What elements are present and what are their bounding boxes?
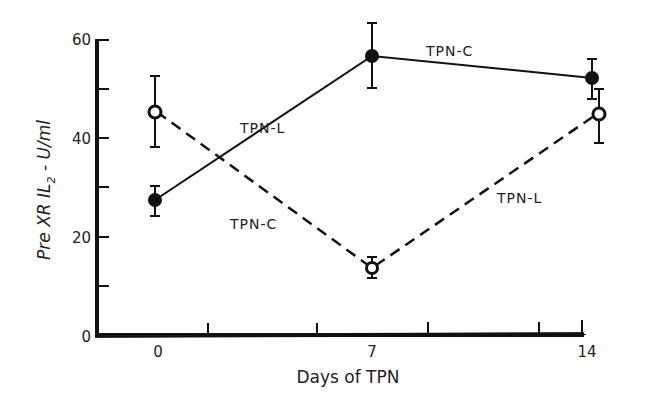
filled-circle-day7: [365, 49, 379, 63]
y-tick-20: 20: [72, 229, 91, 247]
error-bars-open: [150, 76, 604, 278]
x-tick-0: 0: [153, 343, 163, 361]
x-axis-title: Days of TPN: [297, 367, 400, 387]
x-axis: 0 7 14 Days of TPN: [95, 320, 597, 387]
y-tick-60: 60: [72, 31, 91, 49]
y-axis-title: Pre XR IL2 - U/ml: [34, 120, 58, 260]
x-tick-14: 14: [577, 343, 596, 361]
x-tick-7: 7: [367, 343, 377, 361]
y-axis: 60 40 20 0: [72, 31, 109, 346]
annotation-dashed-tpn-l: TPN-L: [496, 190, 542, 206]
line-chart: 60 40 20 0 0 7 14 Days of TPN Pre XR IL2…: [0, 0, 668, 398]
annotation-dashed-tpn-c: TPN-C: [229, 216, 277, 232]
filled-circle-day14: [585, 71, 599, 85]
open-circle-day14: [593, 108, 605, 120]
series-filled-line: [155, 56, 592, 200]
annotation-solid-tpn-c: TPN-C: [425, 43, 473, 59]
y-tick-0: 0: [81, 328, 91, 346]
open-circle-day7: [367, 263, 378, 274]
y-tick-40: 40: [72, 130, 91, 148]
open-circle-day0: [149, 106, 161, 118]
annotation-solid-tpn-l: TPN-L: [239, 120, 285, 136]
filled-circle-day0: [148, 193, 162, 207]
